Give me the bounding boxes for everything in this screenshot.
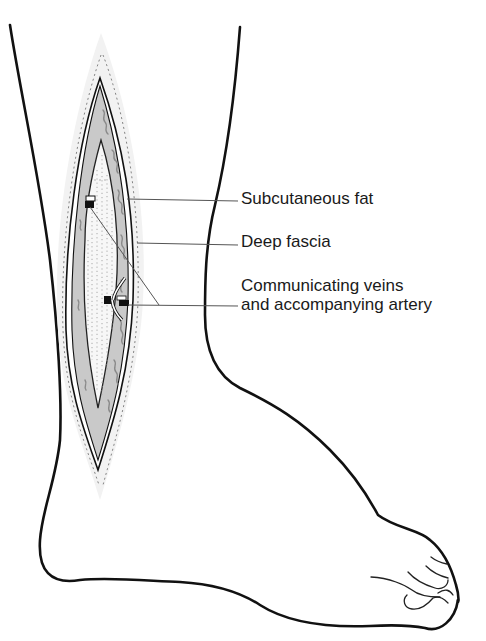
- label-deep-fascia: Deep fascia: [241, 232, 331, 251]
- leader-subcutaneous-fat: [127, 199, 238, 201]
- upper-communicating-vein: [85, 196, 95, 208]
- label-communicating-veins-line2: and accompanying artery: [241, 295, 432, 314]
- label-subcutaneous-fat: Subcutaneous fat: [241, 189, 373, 208]
- label-communicating-veins-line1: Communicating veins: [241, 276, 432, 295]
- label-communicating-veins: Communicating veins and accompanying art…: [241, 276, 432, 314]
- leader-communicating-veins: [128, 305, 238, 306]
- toes: [371, 557, 453, 609]
- leg-incision-illustration: [0, 0, 486, 641]
- incision: [57, 33, 144, 500]
- leader-deep-fascia: [137, 243, 238, 245]
